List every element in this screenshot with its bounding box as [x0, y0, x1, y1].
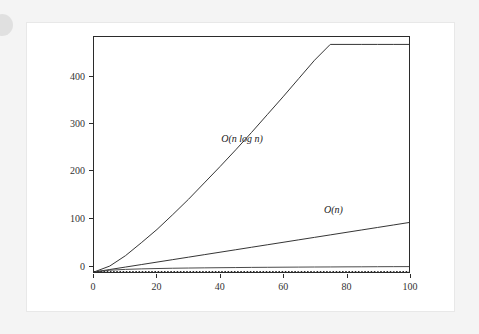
xtick-mark-20 [156, 274, 157, 278]
xtick-mark-100 [410, 274, 411, 278]
xtick-mark-80 [347, 274, 348, 278]
xtick-label-80: 80 [342, 281, 352, 292]
figure-card: O(n log n) O(n) 400 300 200 100 0 0 20 4… [26, 22, 455, 312]
ytick-mark-200 [89, 170, 93, 171]
ytick-mark-400 [89, 76, 93, 77]
xtick-label-20: 20 [151, 281, 161, 292]
ytick-label-200: 200 [53, 165, 85, 176]
ytick-label-0: 0 [53, 261, 85, 272]
plot-area: O(n log n) O(n) [93, 36, 410, 273]
xtick-label-40: 40 [215, 281, 225, 292]
chart-figure: O(n log n) O(n) 400 300 200 100 0 0 20 4… [27, 23, 456, 313]
page-edge-circle-artifact [0, 14, 13, 36]
ytick-mark-300 [89, 123, 93, 124]
ytick-mark-0 [89, 266, 93, 267]
page-background: O(n log n) O(n) 400 300 200 100 0 0 20 4… [0, 0, 479, 334]
xtick-label-0: 0 [91, 281, 96, 292]
ytick-label-400: 400 [53, 71, 85, 82]
annotation-on: O(n) [324, 203, 343, 214]
ytick-label-300: 300 [53, 118, 85, 129]
xtick-label-60: 60 [278, 281, 288, 292]
xtick-mark-0 [93, 274, 94, 278]
annotation-onlogn: O(n log n) [221, 133, 263, 144]
ytick-mark-100 [89, 218, 93, 219]
series-line-on [94, 223, 409, 272]
ytick-label-100: 100 [53, 213, 85, 224]
series-line-onlogn [94, 44, 409, 272]
xtick-mark-60 [283, 274, 284, 278]
xtick-mark-40 [220, 274, 221, 278]
chart-curves [94, 37, 409, 272]
xtick-label-100: 100 [403, 281, 418, 292]
